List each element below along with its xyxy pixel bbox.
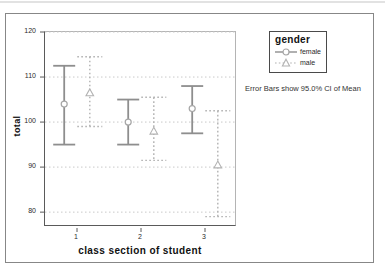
legend-entry-male: male (275, 57, 322, 68)
y-tick-label-110: 110 (18, 72, 36, 80)
errorbar-plot-svg (45, 32, 237, 227)
mean-marker-male-3 (214, 161, 222, 168)
x-tick-label-2: 2 (132, 233, 148, 241)
plot-area (44, 31, 236, 226)
y-tick-label-80: 80 (18, 207, 36, 215)
x-axis-title: class section of student (44, 245, 236, 256)
female-line-circle-icon (275, 47, 297, 57)
legend-label-male: male (300, 59, 315, 66)
mean-marker-female-1 (61, 101, 67, 107)
error-bars-note: Error Bars show 95.0% CI of Mean (245, 84, 373, 93)
y-tick-label-90: 90 (18, 162, 36, 170)
mean-marker-female-3 (189, 106, 195, 112)
legend-title: gender (275, 34, 322, 45)
mean-marker-male-2 (150, 127, 158, 134)
chart-frame: total 8090100110120 123 class section of… (5, 13, 374, 263)
legend-entry-female: female (275, 46, 322, 57)
legend-label-female: female (300, 48, 321, 55)
top-edge-line (0, 1, 385, 3)
y-axis-title: total (12, 96, 24, 156)
mean-marker-female-2 (125, 119, 131, 125)
legend-box: gender female male (269, 31, 327, 73)
x-tick-label-1: 1 (68, 233, 84, 241)
mean-marker-male-1 (86, 89, 94, 96)
y-tick-label-120: 120 (18, 27, 36, 35)
x-tick-label-3: 3 (196, 233, 212, 241)
y-tick-label-100: 100 (18, 117, 36, 125)
male-line-triangle-icon (275, 58, 297, 68)
